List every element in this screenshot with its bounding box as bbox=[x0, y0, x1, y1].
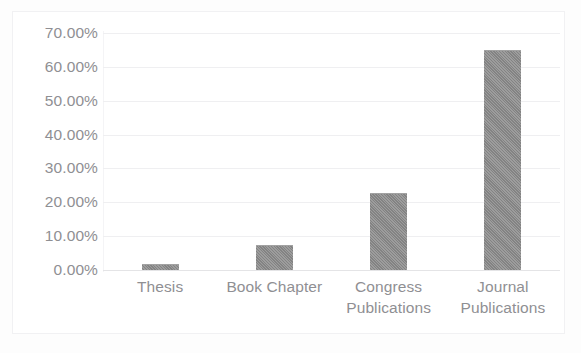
y-tick-label: 40.00% bbox=[45, 127, 98, 143]
y-tick-label: 30.00% bbox=[45, 160, 98, 176]
y-tick-label: 20.00% bbox=[45, 194, 98, 210]
y-tick-label: 50.00% bbox=[45, 93, 98, 109]
gridline-70 bbox=[103, 33, 560, 34]
x-axis-category-labels: ThesisBook ChapterCongressPublicationsJo… bbox=[103, 276, 560, 334]
x-tick-label-line: Congress bbox=[332, 276, 446, 297]
y-axis-tick-labels: 70.00%60.00%50.00%40.00%30.00%20.00%10.0… bbox=[18, 0, 98, 353]
x-tick-label-line: Journal bbox=[446, 276, 560, 297]
y-tick-label: 60.00% bbox=[45, 59, 98, 75]
x-tick-label-line: Publications bbox=[332, 297, 446, 318]
bar-thesis[interactable] bbox=[142, 264, 179, 270]
x-tick-label-line: Publications bbox=[446, 297, 560, 318]
x-tick-label-book-chapter: Book Chapter bbox=[217, 276, 331, 297]
x-tick-label-line: Thesis bbox=[103, 276, 217, 297]
bar-congress-publications[interactable] bbox=[370, 193, 407, 270]
x-tick-label-congress-publications: CongressPublications bbox=[332, 276, 446, 318]
x-tick-label-line: Book Chapter bbox=[217, 276, 331, 297]
chart-title-remnant bbox=[186, 0, 306, 5]
y-tick-label: 70.00% bbox=[45, 25, 98, 41]
plot-area bbox=[103, 33, 560, 270]
y-tick-label: 0.00% bbox=[54, 262, 98, 278]
x-tick-label-journal-publications: JournalPublications bbox=[446, 276, 560, 318]
bar-journal-publications[interactable] bbox=[484, 50, 521, 270]
y-tick-label: 10.00% bbox=[45, 228, 98, 244]
gridline-0 bbox=[103, 270, 560, 271]
bar-chart-figure: 70.00%60.00%50.00%40.00%30.00%20.00%10.0… bbox=[0, 0, 581, 353]
x-tick-label-thesis: Thesis bbox=[103, 276, 217, 297]
bar-book-chapter[interactable] bbox=[256, 245, 293, 270]
